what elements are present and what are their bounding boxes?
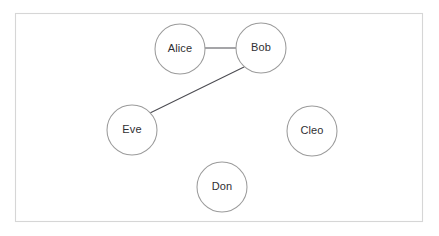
node-cleo[interactable]: Cleo — [287, 106, 337, 156]
node-don-label: Don — [212, 180, 232, 192]
node-bob[interactable]: Bob — [236, 23, 286, 73]
diagram-canvas: Alice Bob Eve Cleo Don — [0, 0, 439, 236]
node-layer: Alice Bob Eve Cleo Don — [107, 23, 337, 212]
node-bob-label: Bob — [251, 41, 271, 53]
network-graph: Alice Bob Eve Cleo Don — [0, 0, 439, 236]
edge-bob-eve[interactable] — [150, 67, 244, 113]
node-cleo-label: Cleo — [300, 124, 323, 136]
node-eve-label: Eve — [122, 123, 141, 135]
node-eve[interactable]: Eve — [107, 105, 157, 155]
node-don[interactable]: Don — [197, 162, 247, 212]
node-alice-label: Alice — [168, 42, 192, 54]
node-alice[interactable]: Alice — [155, 24, 205, 74]
